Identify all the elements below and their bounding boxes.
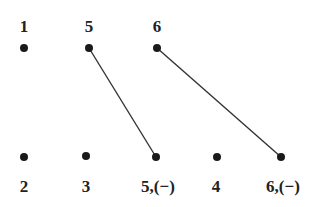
label-bottom-3: 3 bbox=[82, 178, 91, 195]
node-top-1 bbox=[20, 44, 28, 52]
edge-6-to-6neg bbox=[157, 48, 281, 157]
node-bottom-4 bbox=[213, 153, 221, 161]
label-top-5: 5 bbox=[85, 18, 94, 35]
node-bottom-5neg bbox=[152, 153, 160, 161]
diagram-canvas: 1 5 6 2 3 5,(−) 4 6,(−) bbox=[0, 0, 317, 207]
node-bottom-3 bbox=[82, 152, 90, 160]
label-bottom-2: 2 bbox=[20, 178, 29, 195]
node-bottom-6neg bbox=[277, 153, 285, 161]
label-bottom-6neg: 6,(−) bbox=[266, 178, 300, 195]
label-bottom-4: 4 bbox=[212, 178, 221, 195]
label-top-1: 1 bbox=[20, 18, 29, 35]
node-top-6 bbox=[153, 44, 161, 52]
edge-5-to-5neg bbox=[89, 48, 156, 157]
label-top-6: 6 bbox=[153, 18, 162, 35]
node-bottom-2 bbox=[20, 153, 28, 161]
node-top-5 bbox=[85, 44, 93, 52]
label-bottom-5neg: 5,(−) bbox=[141, 178, 175, 195]
